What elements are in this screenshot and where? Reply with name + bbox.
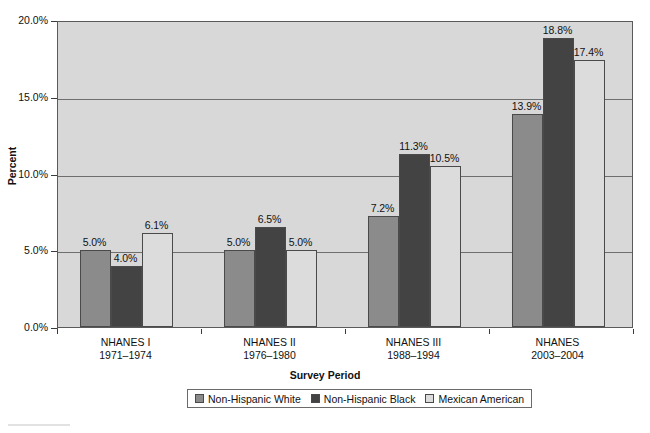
x-tick bbox=[57, 329, 58, 334]
legend-label: Non-Hispanic White bbox=[208, 393, 301, 405]
bar bbox=[512, 114, 543, 327]
x-category-years: 1971–1974 bbox=[56, 349, 196, 362]
y-tick-label: 15.0% bbox=[0, 91, 48, 103]
x-axis-title: Survey Period bbox=[0, 369, 650, 381]
bar-value-label: 7.2% bbox=[359, 202, 406, 214]
x-category-years: 2003–2004 bbox=[488, 349, 628, 362]
legend-item: Non-Hispanic Black bbox=[311, 393, 416, 405]
legend-label: Non-Hispanic Black bbox=[324, 393, 416, 405]
y-tick-label: 0.0% bbox=[0, 321, 48, 333]
bar-value-label: 6.5% bbox=[246, 213, 293, 225]
x-category-label: NHANES2003–2004 bbox=[488, 336, 628, 362]
x-category-years: 1976–1980 bbox=[200, 349, 340, 362]
bar-value-label: 6.1% bbox=[133, 219, 180, 231]
legend-swatch-icon bbox=[311, 394, 320, 403]
scan-artifact bbox=[8, 424, 70, 426]
x-tick bbox=[489, 329, 490, 334]
x-category-label: NHANES II1976–1980 bbox=[200, 336, 340, 362]
bars-layer bbox=[58, 22, 632, 327]
x-category-name: NHANES bbox=[488, 336, 628, 349]
bar bbox=[286, 250, 317, 327]
bar bbox=[368, 216, 399, 327]
bar-value-label: 13.9% bbox=[503, 100, 550, 112]
y-tick-label: 20.0% bbox=[0, 14, 48, 26]
legend-swatch-icon bbox=[195, 394, 204, 403]
legend-label: Mexican American bbox=[438, 393, 524, 405]
x-category-label: NHANES III1988–1994 bbox=[344, 336, 484, 362]
x-category-name: NHANES III bbox=[344, 336, 484, 349]
bar bbox=[111, 266, 142, 327]
x-category-years: 1988–1994 bbox=[344, 349, 484, 362]
bar-value-label: 18.8% bbox=[534, 24, 581, 36]
x-category-label: NHANES I1971–1974 bbox=[56, 336, 196, 362]
y-tick-20.0% bbox=[51, 21, 57, 22]
bar bbox=[142, 233, 173, 327]
y-tick-15.0% bbox=[51, 98, 57, 99]
x-category-name: NHANES I bbox=[56, 336, 196, 349]
bar-value-label: 4.0% bbox=[102, 252, 149, 264]
bar-value-label: 17.4% bbox=[565, 46, 612, 58]
legend: Non-Hispanic WhiteNon-Hispanic BlackMexi… bbox=[187, 389, 532, 408]
bar bbox=[574, 60, 605, 327]
x-tick bbox=[633, 329, 634, 334]
bar-chart: 0.0%5.0%10.0%15.0%20.0% Percent 5.0%4.0%… bbox=[0, 0, 650, 433]
legend-swatch-icon bbox=[425, 394, 434, 403]
y-axis-line bbox=[57, 21, 58, 329]
legend-item: Non-Hispanic White bbox=[195, 393, 301, 405]
plot-area bbox=[57, 21, 633, 328]
x-tick bbox=[345, 329, 346, 334]
x-category-name: NHANES II bbox=[200, 336, 340, 349]
bar bbox=[430, 166, 461, 327]
bar-value-label: 5.0% bbox=[215, 236, 262, 248]
bar bbox=[399, 154, 430, 327]
bar bbox=[543, 38, 574, 327]
y-axis-title: Percent bbox=[6, 136, 18, 196]
legend-item: Mexican American bbox=[425, 393, 524, 405]
y-tick-10.0% bbox=[51, 175, 57, 176]
bar bbox=[224, 250, 255, 327]
bar-value-label: 11.3% bbox=[390, 140, 437, 152]
y-tick-5.0% bbox=[51, 251, 57, 252]
x-tick bbox=[201, 329, 202, 334]
bar-value-label: 10.5% bbox=[421, 152, 468, 164]
y-tick-label: 5.0% bbox=[0, 244, 48, 256]
bar-value-label: 5.0% bbox=[277, 236, 324, 248]
bar-value-label: 5.0% bbox=[71, 236, 118, 248]
